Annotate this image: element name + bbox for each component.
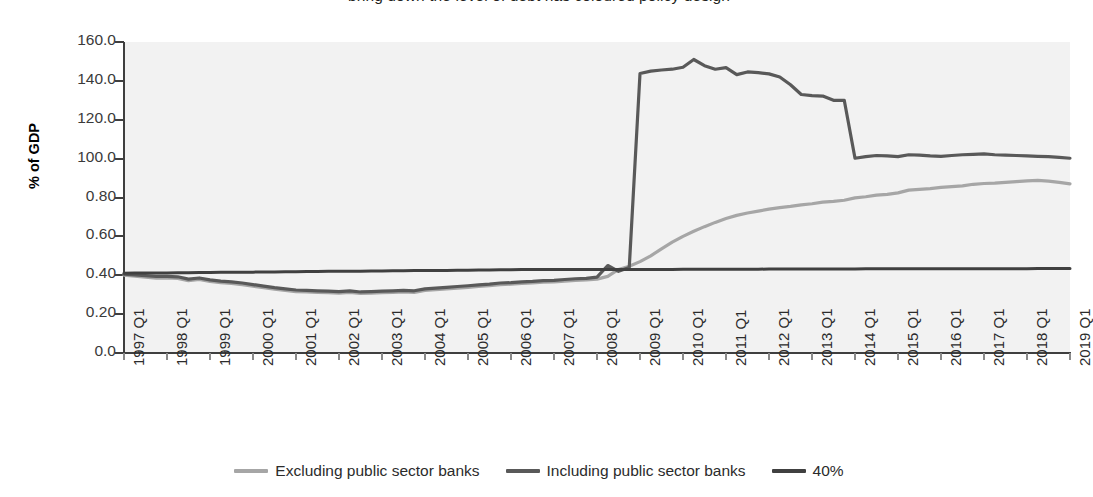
x-axis-tick-label: 2003 Q1 bbox=[388, 308, 405, 366]
legend-item[interactable]: 40% bbox=[772, 462, 844, 480]
x-axis-tick-mark bbox=[1026, 353, 1028, 360]
x-axis-tick-mark bbox=[123, 353, 125, 360]
x-axis-tick-label: 2012 Q1 bbox=[775, 308, 792, 366]
legend-label: 40% bbox=[813, 462, 844, 480]
x-axis-tick-label: 2014 Q1 bbox=[861, 308, 878, 366]
x-axis-tick-label: 2006 Q1 bbox=[517, 308, 534, 366]
x-axis-tick-label: 2016 Q1 bbox=[947, 308, 964, 366]
x-axis-tick-mark bbox=[940, 353, 942, 360]
x-axis-tick-mark bbox=[854, 353, 856, 360]
x-axis-tick-mark bbox=[338, 353, 340, 360]
x-axis-tick-label: 2008 Q1 bbox=[603, 308, 620, 366]
x-axis-tick-label: 1998 Q1 bbox=[173, 308, 190, 366]
x-axis-tick-mark bbox=[596, 353, 598, 360]
x-axis-tick-mark bbox=[424, 353, 426, 360]
x-axis-tick-label: 2004 Q1 bbox=[431, 308, 448, 366]
x-axis-tick-mark bbox=[295, 353, 297, 360]
legend-label: Including public sector banks bbox=[547, 462, 746, 480]
x-axis-tick-mark bbox=[1069, 353, 1071, 360]
x-axis-tick-label: 2019 Q1 bbox=[1076, 308, 1093, 366]
x-axis-tick-mark bbox=[983, 353, 985, 360]
x-axis-tick-mark bbox=[725, 353, 727, 360]
x-axis-tick-mark bbox=[639, 353, 641, 360]
x-axis-tick-label: 2018 Q1 bbox=[1033, 308, 1050, 366]
x-axis-tick-label: 2013 Q1 bbox=[818, 308, 835, 366]
x-axis-tick-mark bbox=[811, 353, 813, 360]
x-axis-tick-label: 2017 Q1 bbox=[990, 308, 1007, 366]
x-axis-tick-mark bbox=[682, 353, 684, 360]
legend-item[interactable]: Excluding public sector banks bbox=[234, 462, 479, 480]
x-axis-tick-label: 1999 Q1 bbox=[216, 308, 233, 366]
legend-swatch-icon bbox=[234, 469, 268, 473]
x-axis-tick-mark bbox=[553, 353, 555, 360]
x-axis-tick-label: 2011 Q1 bbox=[732, 310, 749, 366]
legend-label: Excluding public sector banks bbox=[275, 462, 479, 480]
x-axis-tick-label: 2010 Q1 bbox=[689, 308, 706, 366]
legend-swatch-icon bbox=[772, 469, 806, 473]
x-axis-tick-mark bbox=[381, 353, 383, 360]
x-axis-tick-mark bbox=[252, 353, 254, 360]
x-axis-tick-mark bbox=[209, 353, 211, 360]
series-line bbox=[124, 268, 1070, 273]
chart-legend: Excluding public sector banksIncluding p… bbox=[0, 462, 1078, 480]
series-line bbox=[124, 59, 1070, 291]
x-axis-tick-label: 2000 Q1 bbox=[259, 308, 276, 366]
x-axis-tick-mark bbox=[768, 353, 770, 360]
x-axis-tick-label: 2002 Q1 bbox=[345, 308, 362, 366]
x-axis-tick-label: 2001 Q1 bbox=[302, 308, 319, 366]
x-axis-tick-label: 2007 Q1 bbox=[560, 308, 577, 366]
x-axis-tick-label: 2015 Q1 bbox=[904, 308, 921, 366]
x-axis-tick-mark bbox=[166, 353, 168, 360]
x-axis-tick-mark bbox=[510, 353, 512, 360]
x-axis-tick-label: 1997 Q1 bbox=[130, 308, 147, 366]
x-axis-tick-mark bbox=[467, 353, 469, 360]
x-axis-tick-label: 2009 Q1 bbox=[646, 308, 663, 366]
legend-swatch-icon bbox=[506, 469, 540, 473]
x-axis-tick-mark bbox=[897, 353, 899, 360]
legend-item[interactable]: Including public sector banks bbox=[506, 462, 746, 480]
x-axis-tick-label: 2005 Q1 bbox=[474, 308, 491, 366]
